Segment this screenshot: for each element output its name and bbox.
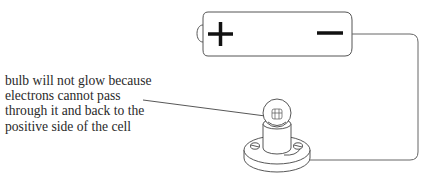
circuit-diagram bbox=[0, 0, 436, 180]
plus-sign-icon bbox=[208, 22, 233, 46]
light-bulb bbox=[263, 99, 291, 127]
connecting-wire bbox=[306, 34, 418, 160]
battery-positive-nub bbox=[197, 25, 203, 42]
leader-line bbox=[143, 100, 273, 117]
